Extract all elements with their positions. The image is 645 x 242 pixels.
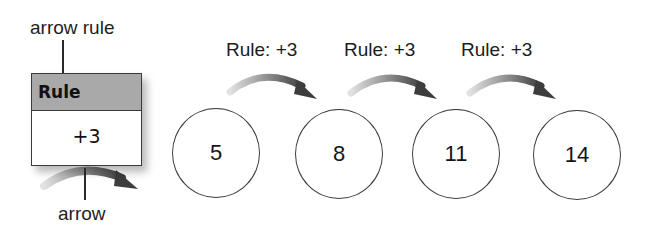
rule-label-2: Rule: +3: [344, 40, 415, 59]
callout-arrow-rule-leader: [62, 40, 64, 74]
rule-key-value: +3: [32, 111, 141, 165]
callout-arrow-rule-label: arrow rule: [30, 18, 114, 37]
rule-label-1: Rule: +3: [226, 40, 297, 59]
sequence-term-1: 5: [172, 108, 260, 198]
rule-arrow-icon-3: [470, 78, 556, 99]
key-arrow-icon: [44, 170, 138, 189]
rule-arrow-icon-1: [230, 77, 317, 99]
sequence-term-value: 5: [210, 140, 222, 166]
sequence-term-value: 11: [445, 141, 468, 167]
sequence-term-3: 11: [412, 109, 500, 199]
callout-arrow-leader: [84, 168, 86, 200]
sequence-term-value: 8: [333, 141, 345, 167]
rule-key-box: Rule +3: [31, 73, 142, 166]
sequence-term-2: 8: [295, 109, 383, 199]
rule-label-3: Rule: +3: [461, 40, 532, 59]
rule-arrow-icon-2: [351, 78, 437, 99]
sequence-term-4: 14: [533, 110, 621, 200]
sequence-term-value: 14: [565, 142, 589, 168]
rule-key-header: Rule: [32, 74, 141, 111]
callout-arrow-label: arrow: [58, 204, 106, 223]
